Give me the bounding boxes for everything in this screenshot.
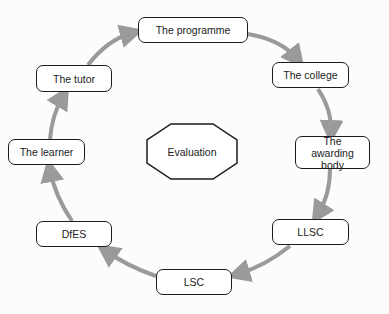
node-college: The college bbox=[272, 62, 349, 88]
node-llsc: LLSC bbox=[272, 219, 349, 245]
arrow-college-awarding bbox=[318, 89, 331, 132]
arrow-dfes-learner bbox=[50, 170, 72, 221]
evaluation-label: Evaluation bbox=[147, 124, 237, 179]
node-tutor: The tutor bbox=[36, 65, 112, 92]
arrow-learner-tutor bbox=[50, 96, 63, 139]
node-awarding-body: The awarding body bbox=[295, 136, 370, 169]
node-learner: The learner bbox=[8, 139, 85, 165]
node-lsc: LSC bbox=[156, 269, 232, 295]
node-dfes: DfES bbox=[36, 221, 112, 247]
arrow-awarding-llsc bbox=[318, 169, 330, 214]
arrow-programme-college bbox=[248, 34, 297, 59]
arrow-tutor-programme bbox=[88, 33, 132, 65]
node-programme: The programme bbox=[138, 17, 248, 43]
arrow-llsc-lsc bbox=[238, 246, 290, 274]
arrow-lsc-dfes bbox=[106, 251, 156, 276]
